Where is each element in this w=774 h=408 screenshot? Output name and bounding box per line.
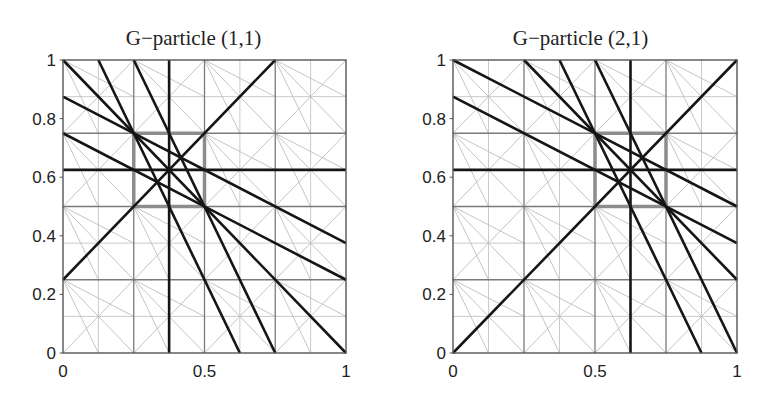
y-tick-label: 0.4 xyxy=(32,227,56,246)
x-tick-label: 1 xyxy=(732,362,741,381)
y-tick-label: 1 xyxy=(437,51,446,70)
plot-area: 00.20.40.60.8100.51 xyxy=(0,0,387,408)
panel-g-particle-2-1: G−particle (2,1) 00.20.40.60.8100.51 xyxy=(387,0,774,408)
x-tick-label: 0.5 xyxy=(583,362,607,381)
y-tick-label: 0.6 xyxy=(32,168,56,187)
y-tick-label: 0 xyxy=(47,344,56,363)
y-tick-label: 0.6 xyxy=(422,168,446,187)
y-tick-label: 0.2 xyxy=(32,285,56,304)
plot-area: 00.20.40.60.8100.51 xyxy=(387,0,774,408)
x-tick-label: 0 xyxy=(58,362,67,381)
y-tick-label: 0.4 xyxy=(422,227,446,246)
panel-g-particle-1-1: G−particle (1,1) 00.20.40.60.8100.51 xyxy=(0,0,387,408)
y-tick-label: 0 xyxy=(437,344,446,363)
y-tick-label: 1 xyxy=(47,51,56,70)
x-tick-label: 1 xyxy=(341,362,350,381)
y-tick-label: 0.8 xyxy=(32,110,56,129)
x-tick-label: 0.5 xyxy=(193,362,217,381)
y-tick-label: 0.2 xyxy=(422,285,446,304)
y-tick-label: 0.8 xyxy=(422,110,446,129)
x-tick-label: 0 xyxy=(448,362,457,381)
